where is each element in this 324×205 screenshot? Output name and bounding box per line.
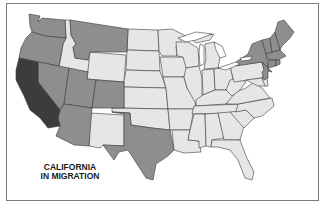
map-caption: CALIFORNIA IN MIGRATION (30, 163, 110, 181)
state-new-mexico (89, 113, 124, 148)
lake-michigan (199, 44, 204, 66)
state-connecticut (268, 60, 276, 68)
state-north-dakota (127, 29, 159, 51)
state-arizona (56, 104, 92, 146)
state-florida (211, 140, 254, 180)
state-arkansas (168, 109, 194, 130)
state-south-dakota (126, 50, 160, 71)
state-colorado (92, 80, 124, 108)
state-rhode-island (276, 60, 280, 66)
state-kansas (124, 87, 168, 109)
state-nebraska (124, 70, 166, 88)
state-wyoming (87, 52, 126, 82)
caption-line-2: IN MIGRATION (30, 172, 110, 181)
